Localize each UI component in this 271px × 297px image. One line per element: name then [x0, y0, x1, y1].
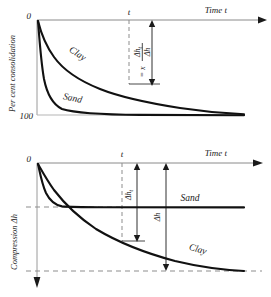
delta-ht-label: Δht — [124, 189, 134, 201]
delta-h-arrow-head-up-icon — [163, 163, 169, 170]
y-tick-label-100: 100 — [20, 111, 34, 121]
figure-root: Time t Per cent consolidation 0 100 t Δh… — [0, 0, 271, 297]
series-label-sand: Sand — [181, 193, 200, 203]
measure-arrow-head-down-icon — [149, 79, 155, 86]
series-label-sand: Sand — [62, 91, 83, 105]
delta-ht-arrow-head-up-icon — [134, 163, 140, 170]
measure-arrow-head-up-icon — [149, 20, 155, 27]
series-label-clay: Clay — [188, 242, 209, 257]
chart-percent-consolidation: Time t Per cent consolidation 0 100 t Δh… — [0, 0, 271, 145]
x-axis-arrowhead-icon — [253, 160, 263, 167]
y-axis-arrowhead-icon — [34, 277, 41, 288]
curve-clay — [38, 164, 244, 271]
y-axis-title: Compression Δh — [9, 214, 19, 270]
x-axis-title: Time t — [205, 148, 228, 158]
series-label-clay: Clay — [67, 44, 88, 63]
ratio-numerator: Δht — [133, 46, 143, 58]
delta-h-label: Δh — [153, 213, 162, 223]
delta-h-arrow-head-down-icon — [163, 264, 169, 271]
ratio-annotation: Δht Δh — [133, 43, 152, 61]
x-axis-title: Time t — [205, 5, 228, 15]
ratio-equals-x: = x — [138, 66, 147, 77]
chart-percent-consolidation-svg: Time t Per cent consolidation 0 100 t Δh… — [0, 0, 271, 145]
x-axis-arrowhead-icon — [258, 17, 267, 24]
chart-compression-delta-h-svg: Time t Compression Δh 0 t Δht — [0, 145, 271, 297]
ratio-denominator: Δh — [143, 48, 152, 58]
y-axis-title: Per cent consolidation — [7, 35, 17, 113]
x-tick-label-t: t — [121, 149, 124, 159]
x-tick-label-t: t — [128, 7, 131, 17]
y-tick-label-0: 0 — [27, 154, 32, 164]
chart-compression-delta-h: Time t Compression Δh 0 t Δht — [0, 145, 271, 297]
curve-sand — [38, 164, 244, 207]
y-tick-label-0: 0 — [27, 11, 32, 21]
